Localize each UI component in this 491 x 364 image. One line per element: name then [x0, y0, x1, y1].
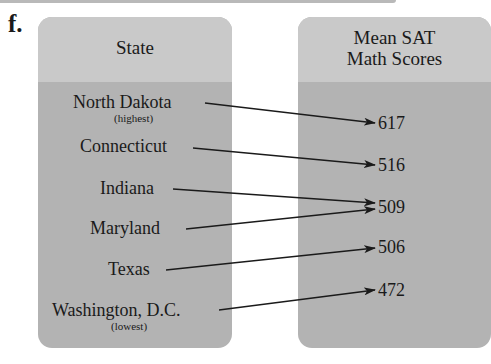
arrow-maryland	[186, 209, 375, 229]
mapping-arrows	[0, 0, 491, 364]
arrow-texas	[166, 248, 375, 270]
arrow-connecticut	[193, 148, 375, 165]
arrow-north-dakota	[205, 103, 375, 123]
arrow-washington-dc	[219, 290, 375, 310]
arrow-indiana	[173, 189, 375, 203]
